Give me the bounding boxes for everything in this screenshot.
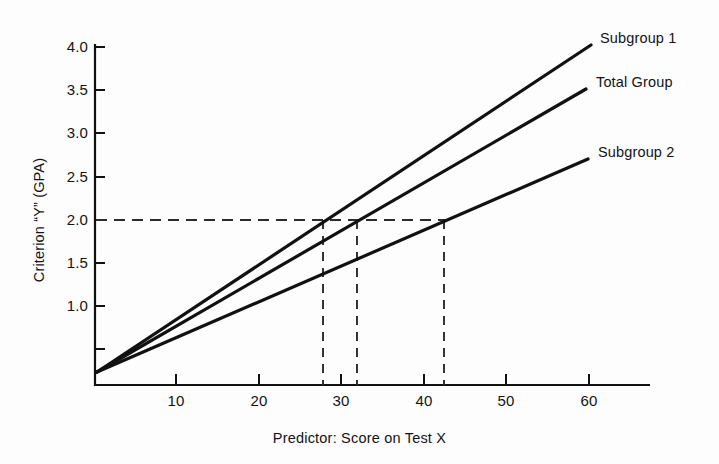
x-tick-label-30: 30 (316, 392, 366, 409)
series-line-subgroup-1 (97, 45, 591, 372)
series-label-subgroup-2: Subgroup 2 (598, 144, 674, 160)
series-line-subgroup-2 (97, 159, 588, 372)
x-tick-label-60: 60 (564, 392, 614, 409)
y-tick-label-2-0: 2.0 (42, 211, 88, 228)
y-axis-title: Criterion “Y” (GPA) (31, 105, 47, 335)
x-tick-label-40: 40 (399, 392, 449, 409)
series-label-total-group: Total Group (596, 74, 673, 90)
x-axis-ticks (176, 374, 589, 385)
y-tick-label-4-0: 4.0 (42, 38, 88, 55)
x-tick-label-50: 50 (481, 392, 531, 409)
chart-figure: 4.0 3.5 3.0 2.5 2.0 1.5 1.0 10 20 30 40 … (0, 0, 719, 464)
y-tick-label-1-0: 1.0 (42, 297, 88, 314)
x-axis-title: Predictor: Score on Test X (0, 430, 719, 446)
y-axis-ticks (95, 47, 105, 349)
y-tick-label-3-0: 3.0 (42, 124, 88, 141)
y-tick-label-1-5: 1.5 (42, 254, 88, 271)
y-tick-label-3-5: 3.5 (42, 81, 88, 98)
x-tick-label-20: 20 (234, 392, 284, 409)
x-tick-label-10: 10 (151, 392, 201, 409)
y-tick-label-2-5: 2.5 (42, 168, 88, 185)
series-label-subgroup-1: Subgroup 1 (600, 30, 676, 46)
series-line-total-group (97, 89, 586, 372)
